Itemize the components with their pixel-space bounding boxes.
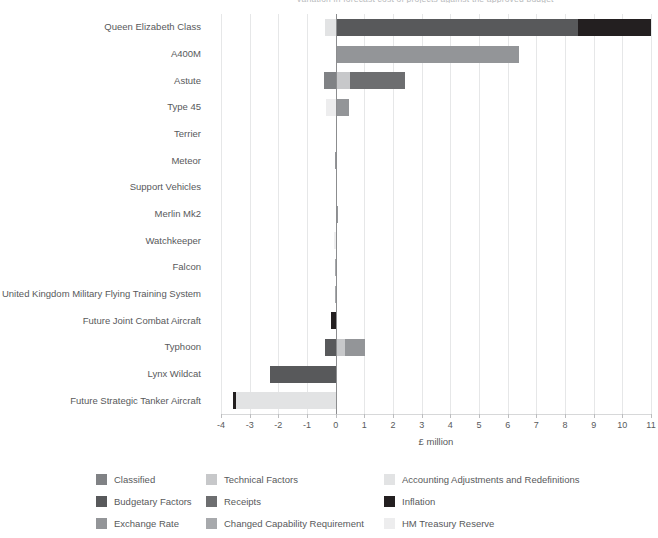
bar-row[interactable] [221, 19, 651, 36]
x-tick-mark [508, 414, 509, 418]
x-tick-mark [651, 414, 652, 418]
x-tick-label: 6 [496, 420, 520, 430]
legend-swatch [384, 496, 395, 507]
x-tick-label: 0 [324, 420, 348, 430]
bar-rows [221, 14, 651, 414]
x-tick-mark [336, 414, 337, 418]
bar-row[interactable] [221, 179, 651, 196]
y-axis-label: Terrier [174, 128, 201, 139]
legend-swatch [384, 518, 395, 529]
bar-segment[interactable] [326, 99, 335, 116]
y-axis-label: Future Joint Combat Aircraft [83, 315, 201, 326]
bar-segment[interactable] [236, 392, 336, 409]
y-axis-label: Meteor [171, 155, 201, 166]
legend-item[interactable]: Accounting Adjustments and Redefinitions [384, 470, 579, 488]
x-tick-label: 9 [582, 420, 606, 430]
legend-label: Receipts [224, 496, 261, 507]
legend-item[interactable]: Changed Capability Requirement [206, 514, 364, 532]
legend-item[interactable]: Receipts [206, 492, 261, 510]
x-tick-mark [221, 414, 222, 418]
x-tick-mark [622, 414, 623, 418]
bar-segment[interactable] [345, 339, 365, 356]
bar-segment[interactable] [324, 72, 336, 89]
x-tick-label: 5 [467, 420, 491, 430]
y-axis-label: United Kingdom Military Flying Training … [2, 288, 201, 299]
y-axis-label: Future Strategic Tanker Aircraft [70, 395, 201, 406]
bar-row[interactable] [221, 152, 651, 169]
x-tick-mark [450, 414, 451, 418]
bar-segment[interactable] [336, 339, 345, 356]
bar-segment[interactable] [336, 19, 578, 36]
legend-label: Changed Capability Requirement [224, 518, 364, 529]
x-tick-label: -4 [209, 420, 233, 430]
bar-segment[interactable] [336, 72, 350, 89]
legend-swatch [206, 518, 217, 529]
bar-segment[interactable] [233, 392, 236, 409]
bar-segment[interactable] [325, 19, 336, 36]
bar-segment[interactable] [325, 339, 336, 356]
legend-swatch [384, 474, 395, 485]
bar-row[interactable] [221, 312, 651, 329]
y-axis-label: Watchkeeper [145, 235, 201, 246]
legend-label: Accounting Adjustments and Redefinitions [402, 474, 579, 485]
bar-segment[interactable] [578, 19, 651, 36]
bar-row[interactable] [221, 392, 651, 409]
legend-swatch [96, 474, 107, 485]
x-tick-label: -3 [238, 420, 262, 430]
y-axis-label: Falcon [172, 261, 201, 272]
y-axis-label: A400M [171, 48, 201, 59]
x-axis-title: £ million [221, 436, 651, 447]
legend-label: Classified [114, 474, 155, 485]
bar-row[interactable] [221, 259, 651, 276]
x-tick-label: 4 [438, 420, 462, 430]
x-tick-mark [594, 414, 595, 418]
x-tick-mark [250, 414, 251, 418]
y-axis-category-labels: Queen Elizabeth ClassA400MAstuteType 45T… [0, 14, 211, 414]
legend-swatch [96, 496, 107, 507]
x-tick-label: 1 [352, 420, 376, 430]
y-axis-label: Type 45 [167, 101, 201, 112]
x-tick-mark [479, 414, 480, 418]
y-axis-label: Typhoon [165, 341, 201, 352]
bar-chart: Variation in forecast cost of projects a… [0, 0, 658, 538]
bar-segment[interactable] [336, 46, 519, 63]
legend-item[interactable]: HM Treasury Reserve [384, 514, 494, 532]
legend-swatch [206, 474, 217, 485]
chart-title: Variation in forecast cost of projects a… [200, 0, 650, 3]
bar-segment[interactable] [350, 72, 405, 89]
x-tick-mark [565, 414, 566, 418]
legend-label: HM Treasury Reserve [402, 518, 494, 529]
bar-segment[interactable] [336, 99, 349, 116]
bar-row[interactable] [221, 126, 651, 143]
legend-swatch [96, 518, 107, 529]
legend-item[interactable]: Exchange Rate [96, 514, 179, 532]
bar-row[interactable] [221, 286, 651, 303]
bar-row[interactable] [221, 99, 651, 116]
x-tick-mark [364, 414, 365, 418]
x-tick-label: 2 [381, 420, 405, 430]
x-tick-mark [536, 414, 537, 418]
y-axis-label: Astute [174, 75, 201, 86]
x-tick-label: 7 [524, 420, 548, 430]
bar-row[interactable] [221, 339, 651, 356]
x-tick-label: 3 [410, 420, 434, 430]
plot-area [221, 14, 651, 414]
bar-row[interactable] [221, 232, 651, 249]
legend-item[interactable]: Technical Factors [206, 470, 298, 488]
bar-row[interactable] [221, 46, 651, 63]
bar-row[interactable] [221, 206, 651, 223]
legend-item[interactable]: Inflation [384, 492, 435, 510]
bar-row[interactable] [221, 366, 651, 383]
bar-row[interactable] [221, 72, 651, 89]
x-tick-mark [278, 414, 279, 418]
legend-label: Budgetary Factors [114, 496, 192, 507]
legend-item[interactable]: Budgetary Factors [96, 492, 192, 510]
y-axis-label: Queen Elizabeth Class [104, 21, 201, 32]
legend-item[interactable]: Classified [96, 470, 155, 488]
bar-segment[interactable] [270, 366, 336, 383]
legend-label: Inflation [402, 496, 435, 507]
y-axis-label: Merlin Mk2 [155, 208, 201, 219]
gridline-zero [336, 14, 337, 414]
x-tick-label: 11 [639, 420, 658, 430]
gridline [651, 14, 652, 414]
